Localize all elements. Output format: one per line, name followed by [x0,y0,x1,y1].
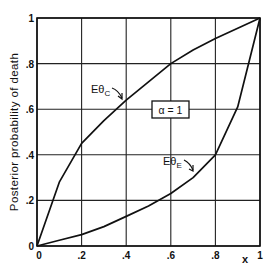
x-axis-label: x [242,253,249,265]
y-tick-label: 0 [28,241,34,252]
y-axis-label: Posterior probability of death [8,53,20,211]
arrow-icon [184,160,193,170]
x-tick-label: .4 [122,250,131,261]
chart: 00.2.2.4.4.6.6.8.811 Posterior probabili… [0,0,274,275]
series-line-e [37,18,260,246]
alpha-annotation: α = 1 [152,101,189,118]
svg-text:EθE: EθE [163,155,182,170]
x-tick-label: 0 [36,250,42,261]
alpha-annotation-text: α = 1 [159,104,183,116]
y-tick-label: .2 [26,195,35,206]
y-tick-label: .6 [26,104,35,115]
tick-labels: 00.2.2.4.4.6.6.8.811 [26,13,264,261]
x-tick-label: 1 [257,250,263,261]
svg-text:EθC: EθC [91,83,110,98]
series-lines [37,18,260,246]
series-c-label: EθC [91,83,122,99]
y-tick-label: 1 [28,13,34,24]
y-tick-label: .8 [26,59,35,70]
series-e-label: EθE [163,155,193,171]
y-tick-label: .4 [26,150,35,161]
x-tick-label: .6 [167,250,176,261]
arrow-icon [112,88,122,98]
x-tick-label: .2 [77,250,86,261]
x-tick-label: .8 [211,250,220,261]
